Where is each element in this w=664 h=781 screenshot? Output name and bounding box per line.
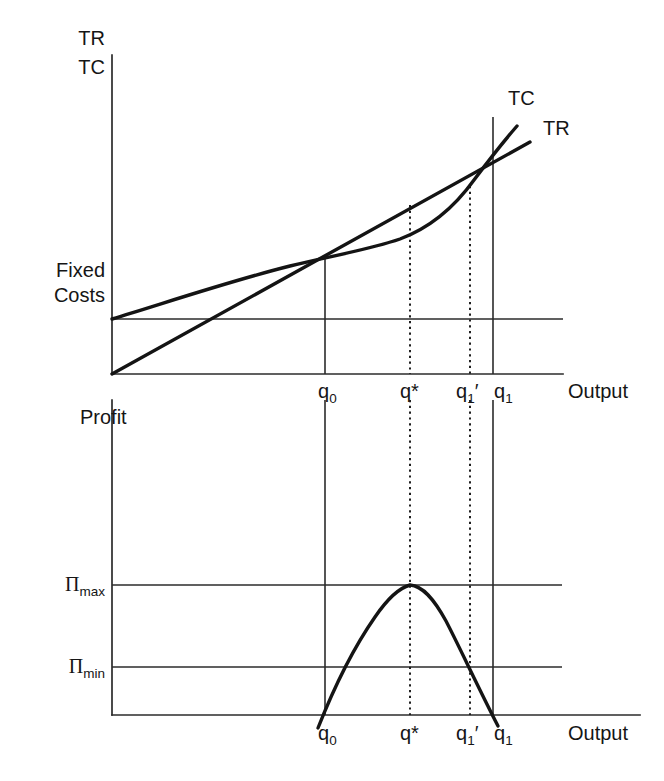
bottom-tick-q0-base: q <box>318 722 329 744</box>
pi-min-label: Πmin <box>69 655 105 681</box>
pi-max-symbol: Π <box>65 573 79 595</box>
bottom-panel-x-axis-label: Output <box>568 722 628 744</box>
top-tick-q1-sub: 1 <box>505 391 513 406</box>
top-tick-q1-base: q <box>494 380 505 402</box>
pi-max-label: Πmax <box>65 573 105 599</box>
bottom-tick-q1-base: q <box>494 722 505 744</box>
bottom-tick-label-q0: q0 <box>318 722 337 748</box>
bottom-tick-label-q1prime: q1′ <box>456 722 479 748</box>
top-panel: TR TC Fixed Costs TC TR q0 q* q1′ q1 Out… <box>54 27 629 406</box>
top-tick-label-q0: q0 <box>318 380 337 406</box>
pi-max-subscript: max <box>79 584 105 599</box>
top-panel-y-axis-label-tc: TC <box>78 56 105 78</box>
bottom-tick-label-qstar: q* <box>400 722 419 744</box>
fixed-costs-label-line2: Costs <box>54 284 105 306</box>
top-tick-q1prime-mark: ′ <box>475 380 479 402</box>
top-tick-q1prime-sub: 1 <box>467 391 475 406</box>
top-panel-x-axis-label: Output <box>568 380 628 402</box>
bottom-tick-q1prime-mark: ′ <box>475 722 479 744</box>
bottom-tick-q0-sub: 0 <box>329 733 337 748</box>
bottom-tick-q1prime-base: q <box>456 722 467 744</box>
pi-min-subscript: min <box>83 666 105 681</box>
top-tick-label-q1: q1 <box>494 380 513 406</box>
bottom-panel: Profit Πmax Πmin q0 q* q1′ q1 Output <box>65 400 640 748</box>
top-panel-y-axis-label-tr: TR <box>78 27 105 49</box>
top-tick-q0-base: q <box>318 380 329 402</box>
top-tick-label-qstar: q* <box>400 380 419 402</box>
fixed-costs-label-line1: Fixed <box>56 259 105 281</box>
bottom-tick-q1prime-sub: 1 <box>467 733 475 748</box>
total-cost-curve <box>112 126 517 319</box>
economics-figure: TR TC Fixed Costs TC TR q0 q* q1′ q1 Out… <box>0 0 664 781</box>
bottom-tick-label-q1: q1 <box>494 722 513 748</box>
tc-curve-label: TC <box>508 87 535 109</box>
tr-tc-profit-diagram: TR TC Fixed Costs TC TR q0 q* q1′ q1 Out… <box>0 0 664 781</box>
top-tick-q1prime-base: q <box>456 380 467 402</box>
top-tick-q0-sub: 0 <box>329 391 337 406</box>
top-tick-label-q1prime: q1′ <box>456 380 479 406</box>
pi-min-symbol: Π <box>69 655 83 677</box>
bottom-tick-q1-sub: 1 <box>505 733 513 748</box>
tr-curve-label: TR <box>543 117 570 139</box>
bottom-panel-y-axis-label: Profit <box>80 406 127 428</box>
